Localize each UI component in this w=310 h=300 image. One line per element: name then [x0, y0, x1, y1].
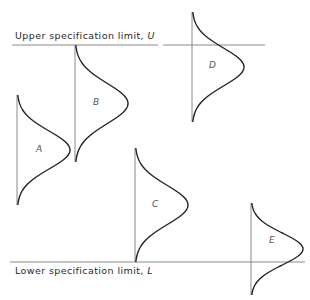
process-capability-diagram: [0, 0, 310, 300]
distribution-curve-d: [193, 12, 244, 122]
distribution-curves: [17, 12, 303, 295]
distribution-curve-e: [252, 203, 303, 295]
distribution-label-c: C: [152, 199, 158, 209]
upper-spec-limit-label: Upper specification limit, U: [15, 30, 155, 41]
upper-spec-limit-text: Upper specification limit,: [15, 30, 147, 41]
distribution-label-e: E: [269, 235, 275, 245]
distribution-label-b: B: [93, 97, 99, 107]
distribution-curve-a: [18, 95, 70, 205]
distribution-label-a: A: [36, 144, 42, 154]
lower-spec-limit-symbol: L: [147, 265, 153, 276]
distribution-curve-c: [136, 148, 188, 262]
lower-spec-limit-text: Lower specification limit,: [15, 265, 147, 276]
lower-spec-limit-label: Lower specification limit, L: [15, 265, 153, 276]
distribution-label-d: D: [209, 60, 216, 70]
upper-spec-limit-symbol: U: [147, 30, 154, 41]
distribution-curve-b: [76, 45, 128, 162]
